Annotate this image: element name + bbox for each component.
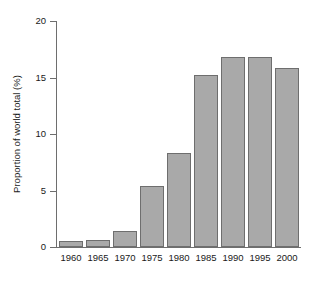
y-tick-label: 10 bbox=[14, 129, 46, 139]
bar bbox=[86, 240, 110, 247]
y-tick-label: 15 bbox=[14, 73, 46, 83]
bar bbox=[248, 57, 272, 247]
bar-chart-figure: Proportion of world total (%) 05101520 1… bbox=[0, 0, 319, 286]
bar bbox=[194, 75, 218, 247]
y-tick-label: 0 bbox=[14, 242, 46, 252]
bar bbox=[221, 57, 245, 247]
y-tick-label: 5 bbox=[14, 186, 46, 196]
y-tick-mark bbox=[50, 21, 56, 22]
bar bbox=[275, 68, 299, 247]
y-tick-label: 20 bbox=[14, 16, 46, 26]
y-tick-mark bbox=[50, 134, 56, 135]
bar bbox=[140, 186, 164, 247]
y-tick-mark bbox=[50, 78, 56, 79]
x-axis-line bbox=[56, 247, 301, 248]
bars-group bbox=[57, 21, 300, 247]
bar bbox=[59, 241, 83, 247]
y-tick-mark bbox=[50, 191, 56, 192]
y-tick-mark bbox=[50, 247, 56, 248]
bar bbox=[167, 153, 191, 247]
bar bbox=[113, 231, 137, 247]
x-tick-label: 2000 bbox=[270, 252, 304, 263]
